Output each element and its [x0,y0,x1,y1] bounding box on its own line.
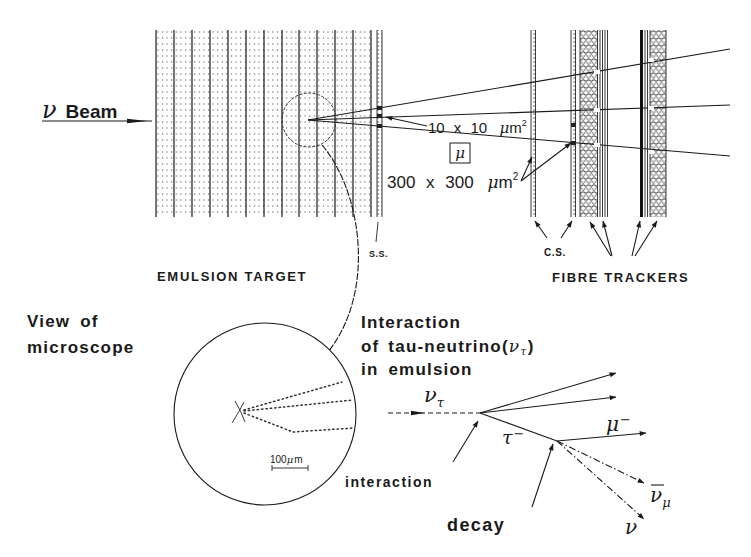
beam-label: ν Beam [42,96,117,124]
interaction-title: Interaction of tau-neutrino(ντ) in emuls… [361,313,535,379]
nu-track [557,441,644,519]
decay-pointer-arrow-icon [532,444,553,507]
svg-text:of tau-neutrino(ντ): of tau-neutrino(ντ) [361,336,535,358]
changeable-sheet-1 [531,30,536,217]
beam-text: Beam [66,101,118,122]
svg-text:νμ: νμ [650,483,671,510]
fibre-resolution-label: 300 x 300 μm2 [387,143,571,192]
cs-pointers [535,221,572,238]
hadron-track-2 [480,397,616,413]
svg-text:Interaction: Interaction [361,313,461,332]
emulsion-target [155,30,373,217]
svg-text:10 x 10 μm2: 10 x 10 μm2 [428,118,527,137]
cs-label: C.S. [544,247,566,258]
ss-label: S.S. [369,249,388,259]
nu-label: ν [625,515,637,539]
neutrino-symbol: ν [42,96,57,124]
anti-nu-mu-label: νμ [650,483,671,510]
arrow-icon [386,117,427,126]
interaction-pointer-arrow-icon [453,421,478,462]
emulsion-target-label: EMULSION TARGET [157,269,307,284]
svg-text:ν Beam: ν Beam [42,96,117,124]
fibre-tracker-pointers [590,221,657,256]
svg-text:View of: View of [27,312,99,331]
tau-label: τ− [502,426,524,448]
svg-text:in emulsion: in emulsion [361,360,473,379]
svg-text:microscope: microscope [27,338,134,357]
muon-track [557,433,646,441]
svg-text:100μm: 100μm [270,454,303,465]
fibre-tracker-1 [580,30,608,217]
svg-text:μ: μ [455,144,465,162]
special-sheet [376,30,382,242]
muon-label: μ− [606,412,631,436]
neutrino-detector-diagram: ν Beam S.S. [0,0,751,557]
microscope-title: View of microscope [27,312,134,357]
muon-box: μ [450,143,470,163]
anti-nu-mu-track [557,441,644,483]
svg-text:300 x 300 μm2: 300 x 300 μm2 [387,171,519,192]
track-resolution-label: 10 x 10 μm2 [386,117,527,137]
decay-label: decay [447,515,505,535]
microscope-view: 100μm [174,323,356,505]
arrow-icon [521,143,571,181]
fibre-trackers-label: FIBRE TRACKERS [552,270,689,285]
nu-tau-label: ντ [424,383,445,410]
hadron-track-1 [480,373,616,413]
interaction-label: interaction [345,474,433,490]
